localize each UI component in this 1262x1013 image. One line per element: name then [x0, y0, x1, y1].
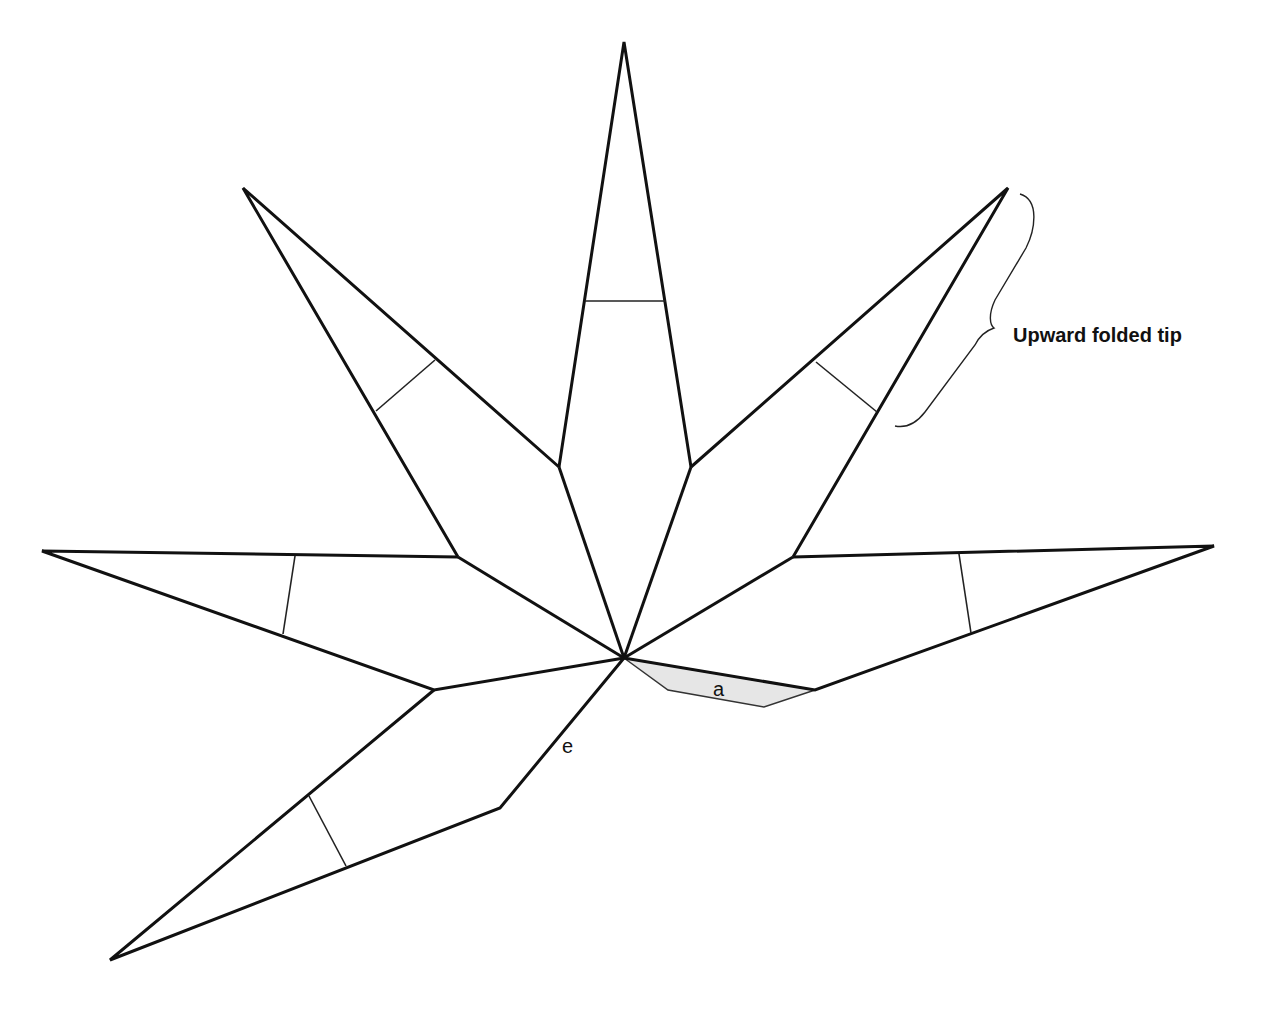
region-label-a: a	[713, 678, 725, 700]
region-label-e: e	[562, 735, 573, 757]
lobe-top	[559, 42, 691, 467]
fold-line-upper-right	[816, 362, 877, 412]
lobe-left	[42, 551, 624, 690]
lobe-lower-left	[110, 658, 624, 960]
fold-line-upper-left	[376, 360, 435, 411]
lobe-upper-right	[691, 188, 1008, 557]
lobe-upper-left	[243, 188, 559, 557]
fold-line-right	[959, 554, 971, 633]
curly-brace-icon	[895, 194, 1034, 427]
fold-line-lower-left	[309, 796, 346, 866]
fold-line-left	[283, 556, 295, 634]
annotation-upward-folded-tip: Upward folded tip	[1013, 324, 1182, 346]
leaf-fold-diagram: Upward folded tip a e	[0, 0, 1262, 1013]
lobe-right	[624, 546, 1214, 690]
